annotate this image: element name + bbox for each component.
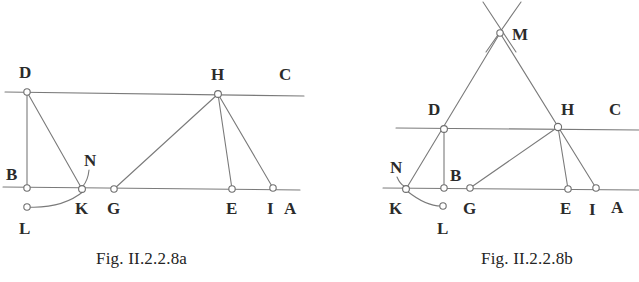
label-N-b: N (390, 158, 403, 177)
label-B-b: B (450, 166, 461, 185)
label-M-b: M (512, 25, 528, 44)
line-HE-b (558, 127, 568, 189)
pointer-N-to-K-b (397, 177, 404, 186)
node-D (24, 89, 30, 95)
line-DK (27, 92, 82, 189)
arc-KL-b (407, 191, 443, 206)
line-BA (3, 187, 300, 190)
label-G-b: G (463, 199, 476, 218)
label-E-b: E (560, 199, 571, 218)
node-L (24, 204, 30, 210)
pointer-N-to-K (83, 170, 89, 186)
label-L-b: L (437, 219, 448, 238)
node-M (497, 30, 503, 36)
figure-b-geometry (383, 2, 639, 206)
node-L-b (440, 203, 446, 209)
figure-a-caption: Fig. II.2.2.8a (96, 249, 187, 269)
node-I-b (593, 185, 599, 191)
figure-a-labels: D H C B N K G E I A L (6, 63, 297, 238)
line-DC (5, 92, 304, 96)
figure-b-caption: Fig. II.2.2.8b (481, 249, 573, 269)
label-C-b: C (609, 100, 621, 119)
node-B (24, 185, 30, 191)
label-K-b: K (389, 199, 403, 218)
figure-a-nodes (24, 89, 276, 210)
node-K (79, 186, 86, 193)
label-N: N (84, 151, 97, 170)
label-E: E (226, 199, 237, 218)
label-D: D (19, 63, 31, 82)
label-A: A (284, 199, 297, 218)
line-DC-b (396, 128, 639, 130)
label-A-b: A (611, 198, 624, 217)
node-H (215, 91, 222, 98)
label-I-b: I (589, 200, 596, 219)
node-E-b (565, 186, 571, 192)
line-HE (218, 94, 232, 189)
label-D-b: D (428, 100, 440, 119)
label-H: H (211, 65, 224, 84)
label-I: I (267, 199, 274, 218)
figure-a-geometry (3, 92, 304, 207)
node-G (111, 186, 117, 192)
line-GH-b (470, 127, 558, 188)
label-G: G (107, 199, 120, 218)
label-L: L (19, 219, 30, 238)
figure-page: D H C B N K G E I A L M D H C N B K G E … (0, 0, 639, 282)
line-GH (114, 94, 218, 189)
label-C: C (279, 65, 291, 84)
figure-b-labels: M D H C N B K G E I A L (389, 25, 624, 238)
node-E (229, 186, 235, 192)
line-HI (218, 94, 273, 188)
line-KA-b (383, 188, 639, 190)
node-K-b (403, 186, 410, 193)
node-I (270, 185, 276, 191)
node-B-b (441, 185, 447, 191)
figure-b-nodes (403, 30, 600, 209)
line-MI (500, 33, 596, 188)
label-K: K (75, 199, 89, 218)
node-H-b (554, 123, 561, 130)
geometry-figures-canvas: D H C B N K G E I A L M D H C N B K G E … (0, 0, 639, 282)
node-D-b (441, 126, 448, 133)
node-G-b (467, 185, 473, 191)
label-B: B (6, 165, 17, 184)
label-H-b: H (561, 100, 574, 119)
